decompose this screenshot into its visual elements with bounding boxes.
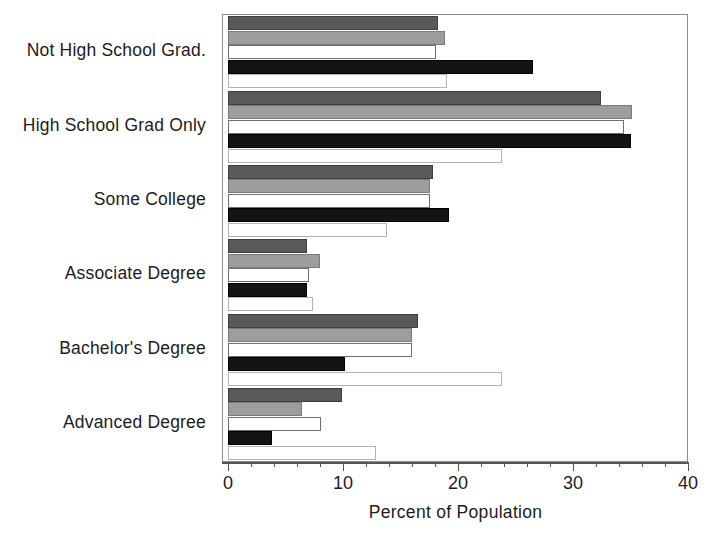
- x-tick-major: [343, 462, 344, 471]
- x-tick-minor: [251, 462, 252, 467]
- x-tick-minor: [481, 462, 482, 467]
- category-label: High School Grad Only: [0, 117, 206, 135]
- bar-2: [228, 402, 302, 416]
- x-axis-title: Percent of Population: [222, 502, 689, 523]
- x-tick-minor: [389, 462, 390, 467]
- x-tick-major: [228, 462, 229, 471]
- bar-3: [228, 45, 436, 59]
- category-label: Some College: [0, 191, 206, 209]
- x-tick-minor: [619, 462, 620, 467]
- bar-1: [228, 239, 307, 253]
- x-tick-minor: [435, 462, 436, 467]
- x-tick-minor: [642, 462, 643, 467]
- x-tick-minor: [527, 462, 528, 467]
- x-tick-major: [688, 462, 689, 471]
- bar-1: [228, 91, 601, 105]
- bar-group: [228, 165, 688, 237]
- bar-4: [228, 357, 345, 371]
- x-tick-label: 30: [563, 474, 583, 492]
- x-tick-label: 0: [223, 474, 233, 492]
- bar-group: [228, 388, 688, 460]
- bar-3: [228, 343, 412, 357]
- bar-4: [228, 431, 272, 445]
- x-tick-minor: [665, 462, 666, 467]
- bar-1: [228, 165, 433, 179]
- bar-5: [228, 223, 387, 237]
- category-label: Advanced Degree: [0, 414, 206, 432]
- bar-group: [228, 239, 688, 311]
- x-tick-minor: [366, 462, 367, 467]
- bars-area: [228, 15, 688, 461]
- bar-group: [228, 91, 688, 163]
- bar-2: [228, 179, 430, 193]
- bar-5: [228, 149, 502, 163]
- category-label: Associate Degree: [0, 265, 206, 283]
- bar-5: [228, 297, 313, 311]
- bar-3: [228, 194, 430, 208]
- bar-1: [228, 16, 438, 30]
- x-tick-label: 40: [678, 474, 698, 492]
- bar-4: [228, 60, 533, 74]
- bar-2: [228, 254, 320, 268]
- bar-2: [228, 31, 445, 45]
- category-axis-labels: Not High School Grad.High School Grad On…: [0, 14, 214, 462]
- x-tick-minor: [274, 462, 275, 467]
- bar-3: [228, 268, 309, 282]
- bar-5: [228, 74, 447, 88]
- bar-3: [228, 417, 321, 431]
- bar-5: [228, 372, 502, 386]
- category-label: Bachelor's Degree: [0, 340, 206, 358]
- category-label: Not High School Grad.: [0, 42, 206, 60]
- x-tick-minor: [596, 462, 597, 467]
- bar-3: [228, 120, 624, 134]
- x-tick-minor: [550, 462, 551, 467]
- x-tick-major: [573, 462, 574, 471]
- bar-1: [228, 388, 342, 402]
- bar-group: [228, 16, 688, 88]
- bar-2: [228, 105, 632, 119]
- bar-2: [228, 328, 412, 342]
- x-axis-tick-labels: 010203040: [228, 474, 688, 500]
- x-tick-label: 20: [448, 474, 468, 492]
- x-tick-minor: [504, 462, 505, 467]
- bar-4: [228, 134, 631, 148]
- x-tick-minor: [320, 462, 321, 467]
- bar-1: [228, 314, 418, 328]
- x-tick-major: [458, 462, 459, 471]
- bar-5: [228, 446, 376, 460]
- bar-4: [228, 283, 307, 297]
- x-tick-label: 10: [333, 474, 353, 492]
- x-tick-minor: [412, 462, 413, 467]
- x-tick-minor: [297, 462, 298, 467]
- bar-chart: Not High School Grad.High School Grad On…: [0, 0, 726, 537]
- bar-group: [228, 314, 688, 386]
- bar-4: [228, 208, 449, 222]
